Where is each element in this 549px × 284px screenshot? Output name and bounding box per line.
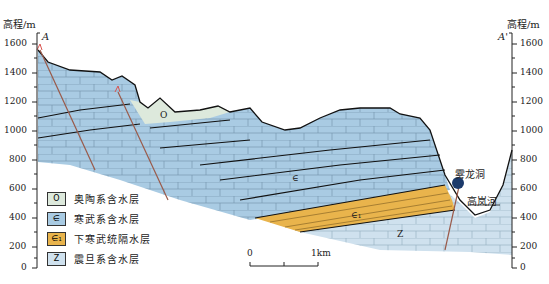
legend-item-sinian: Z 震旦系含水层 [47, 250, 151, 267]
left-corner-label: A [42, 31, 49, 42]
unit-label-sinian: Z [397, 229, 403, 239]
tick-label: 1200 [4, 96, 27, 106]
legend-item-lower-cambrian: ∈₁ 下寒武统隔水层 [47, 230, 151, 247]
tick-label: 1600 [4, 38, 27, 48]
right-corner-label: A' [498, 31, 508, 42]
scale-end-label: 1km [311, 248, 331, 258]
tick-label: 0 [21, 262, 27, 272]
tick-label: 600 [9, 183, 26, 193]
tick-label: 800 [9, 154, 26, 164]
right-axis-title: 高程/m [507, 16, 540, 31]
cave-label: 雾龙洞 [455, 166, 485, 181]
scale-start-label: 0 [247, 248, 253, 258]
tick-label: 1400 [520, 67, 543, 77]
unit-label-o: O [160, 110, 167, 120]
tick-label: 200 [520, 241, 537, 251]
legend-swatch: O [47, 192, 66, 206]
tick-label: 1000 [4, 125, 27, 135]
tick-label: 1400 [4, 67, 27, 77]
legend: O 奥陶系含水层 ∈ 寒武系含水层 ∈₁ 下寒武统隔水层 Z 震旦系含水层 [47, 190, 151, 270]
tick-label: 0 [520, 262, 526, 272]
legend-label: 寒武系含水层 [74, 211, 140, 226]
tick-label: 400 [9, 212, 26, 222]
left-axis-title: 高程/m [3, 16, 36, 31]
tick-label: 600 [520, 183, 537, 193]
tick-label: 800 [520, 154, 537, 164]
unit-label-lower-cambrian: ∈₁ [351, 210, 361, 220]
tick-label: 400 [520, 212, 537, 222]
legend-item-cambrian: ∈ 寒武系含水层 [47, 210, 151, 227]
tick-label: 200 [9, 241, 26, 251]
legend-label: 下寒武统隔水层 [74, 231, 151, 246]
legend-swatch: ∈ [47, 212, 66, 226]
tick-label: 1600 [520, 38, 543, 48]
tick-label: 1200 [520, 96, 543, 106]
legend-swatch: ∈₁ [47, 232, 66, 246]
legend-label: 震旦系含水层 [74, 251, 140, 266]
tick-label: 1000 [520, 125, 543, 135]
legend-swatch: Z [47, 252, 66, 266]
river-label: 高岚河 [467, 193, 497, 208]
legend-item-ordovician: O 奥陶系含水层 [47, 190, 151, 207]
legend-label: 奥陶系含水层 [74, 191, 140, 206]
unit-label-cambrian: ∈ [292, 173, 299, 183]
